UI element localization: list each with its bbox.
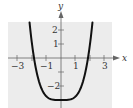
y-tick-label-2: 2 [52,25,58,35]
x-tick-label-neg3: −3 [11,61,25,71]
x-axis-label: x [122,53,127,63]
x-tick-label-neg1: −1 [40,61,53,71]
x-tick-label-1: 1 [73,61,79,71]
x-axis-arrow-icon [113,56,120,61]
y-axis-arrow-icon [59,11,64,18]
y-axis-label: y [57,1,64,11]
x-tick-label-3: 3 [102,61,108,71]
y-tick-label-neg2: −2 [47,81,60,91]
function-graph: x y −3 −1 1 3 2 1 −2 [0,0,133,108]
y-tick-label-1: 1 [53,39,59,49]
